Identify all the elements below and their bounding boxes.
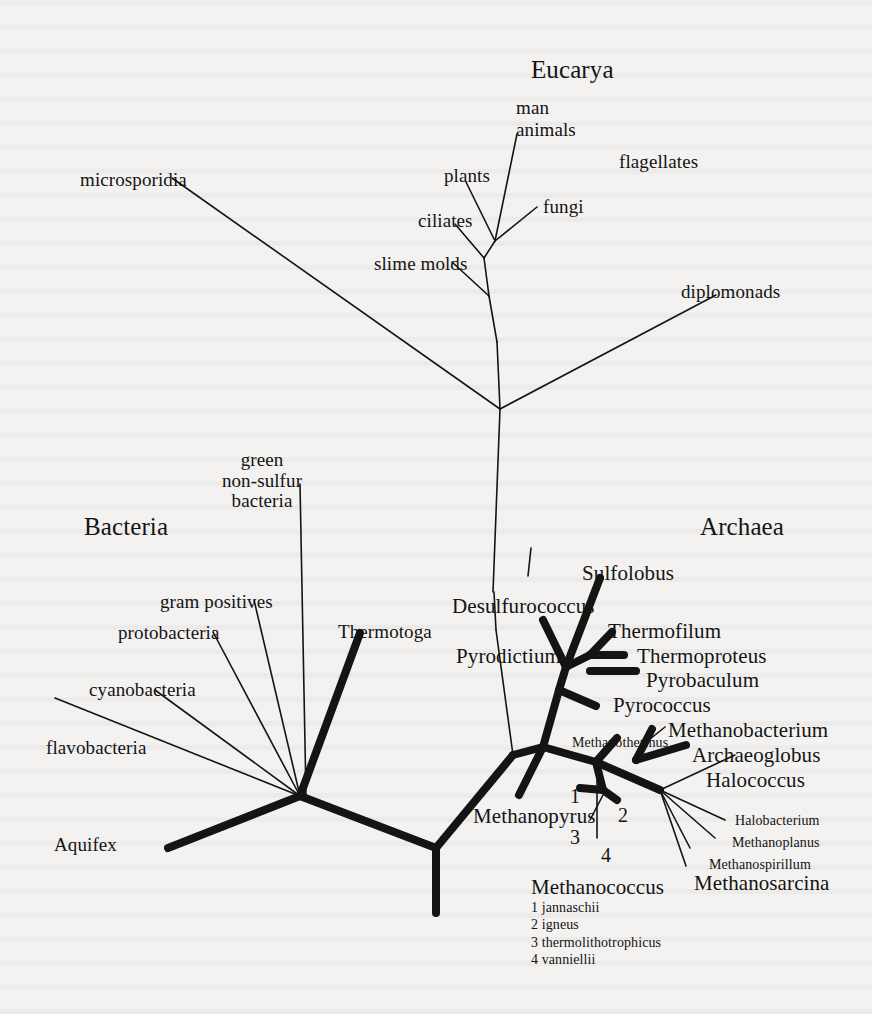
methanococcus-legend-item-3: 3 thermolithotrophicus [531,934,664,952]
taxon-label-microsporidia: microsporidia [80,170,187,191]
thermotoga-branch [300,633,360,796]
taxon-label-green-non-sulfur-bacteria: greennon-sulfurbacteria [222,450,302,512]
taxon-label-methanoplanus: Methanoplanus [732,835,820,850]
taxon-label-halococcus: Halococcus [706,769,805,792]
taxon-label-sulfolobus: Sulfolobus [582,562,674,585]
eucarya-node-mid [484,258,489,296]
eucarya-trunk [497,342,500,409]
desulfurococcus-pointer [528,548,531,576]
taxon-label-pyrococcus: Pyrococcus [613,694,711,717]
diplomonads-branch [500,295,716,409]
archaea-root-arm [436,755,513,848]
methanococcus-legend-item-2: 2 igneus [531,916,664,934]
taxon-label-man: man [516,98,549,119]
thin-branch-group [55,134,735,866]
pyrococcus-branch [559,690,596,706]
taxon-label-pyrodictium: Pyrodictium [456,645,561,668]
methanococcus-legend-item-4: 4 vanniellii [531,951,664,969]
halobacterium-pointer [660,790,725,820]
taxon-label-thermotoga: Thermotoga [338,622,432,643]
branch-number-3: 3 [570,827,580,849]
methanococcus-2 [603,790,617,800]
taxon-label-halobacterium: Halobacterium [735,813,820,828]
eucarya-node-upper [484,241,495,258]
figure-page: EucaryaBacteriaArchaeamananimalsplantsfu… [0,0,872,1014]
taxon-label-thermoproteus: Thermoproteus [637,645,767,668]
taxon-label-methanopyrus: Methanopyrus [473,805,596,828]
bacteria-root-arm [300,796,436,848]
taxon-label-methanobacterium: Methanobacterium [668,719,828,742]
methanococcus-legend: Methanococcus1 jannaschii2 igneus3 therm… [531,876,664,969]
eucarya-node-lower [489,296,497,342]
taxon-label-ciliates: ciliates [418,211,473,232]
taxon-label-flavobacteria: flavobacteria [46,738,146,759]
taxon-label-slime-molds: slime molds [374,254,467,275]
taxon-label-thermofilum: Thermofilum [608,620,721,643]
taxon-label-plants: plants [444,166,490,187]
taxon-label-diplomonads: diplomonads [681,282,780,303]
taxon-label-cyanobacteria: cyanobacteria [89,680,196,701]
methanococcus-legend-item-1: 1 jannaschii [531,899,664,917]
taxon-label-desulfurococcus: Desulfurococcus [452,595,595,618]
aquifex-branch [168,796,300,848]
taxon-label-animals: animals [516,120,576,141]
taxon-label-flagellates: flagellates [619,152,698,173]
protobacteria-branch [213,632,300,796]
methanospirillum-pointer [660,790,690,848]
archaea-trunk-thin [493,409,500,592]
green-nonsulfur-branch [300,484,306,796]
methanococcus-legend-title: Methanococcus [531,876,664,899]
branch-number-4: 4 [601,845,611,867]
taxon-label-methanospirillum: Methanospirillum [709,857,811,872]
taxon-label-aquifex: Aquifex [54,835,117,856]
domain-label-archaea: Archaea [700,513,784,540]
taxon-label-pyrobaculum: Pyrobaculum [646,669,759,692]
taxon-label-green-non-sulfur-bacteria-line: bacteria [222,491,302,512]
branch-number-1: 1 [570,786,580,808]
domain-label-eucarya: Eucarya [531,56,614,83]
taxon-label-green-non-sulfur-bacteria-line: non-sulfur [222,471,302,492]
taxon-label-methanothermus: Methanothermus [572,735,668,750]
taxon-label-protobacteria: protobacteria [118,623,220,644]
branch-number-2: 2 [618,805,628,827]
domain-label-bacteria: Bacteria [84,513,168,540]
crenarchaeota-stem [543,690,559,747]
taxon-label-methanosarcina: Methanosarcina [694,872,830,895]
taxon-label-green-non-sulfur-bacteria-line: green [222,450,302,471]
taxon-label-gram-positives: gram positives [160,592,273,613]
taxon-label-archaeoglobus: Archaeoglobus [692,744,820,767]
taxon-label-fungi: fungi [543,197,584,218]
